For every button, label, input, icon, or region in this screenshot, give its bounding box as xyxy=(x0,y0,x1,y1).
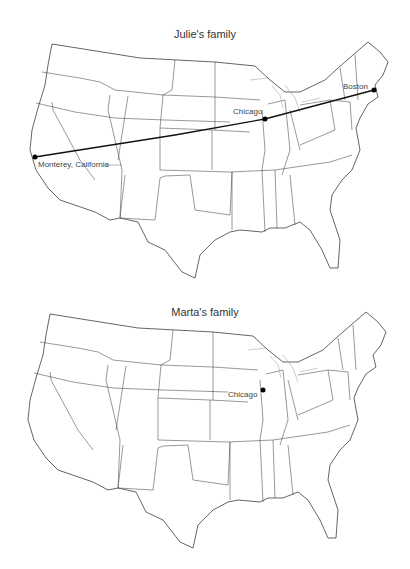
map-panel-julie: Julie's family Monterey, California Chic… xyxy=(0,0,410,290)
us-map-marta: Chicago xyxy=(0,290,410,569)
city-label: Boston xyxy=(343,82,368,91)
route-line xyxy=(35,90,374,157)
city-chicago: Chicago xyxy=(228,388,266,400)
city-label: Chicago xyxy=(233,107,263,116)
city-dot xyxy=(33,155,38,160)
us-map-julie: Monterey, California Chicago Boston xyxy=(0,0,410,290)
city-label: Monterey, California xyxy=(38,160,110,169)
city-dot xyxy=(263,117,268,122)
map-panel-marta: Marta's family Chicago xyxy=(0,290,410,569)
state-borders xyxy=(36,55,358,232)
route-julie xyxy=(35,90,374,157)
city-label: Chicago xyxy=(228,390,258,399)
city-dot xyxy=(372,88,377,93)
city-dot xyxy=(261,388,266,393)
city-monterey: Monterey, California xyxy=(33,155,123,170)
us-outline xyxy=(28,312,386,548)
